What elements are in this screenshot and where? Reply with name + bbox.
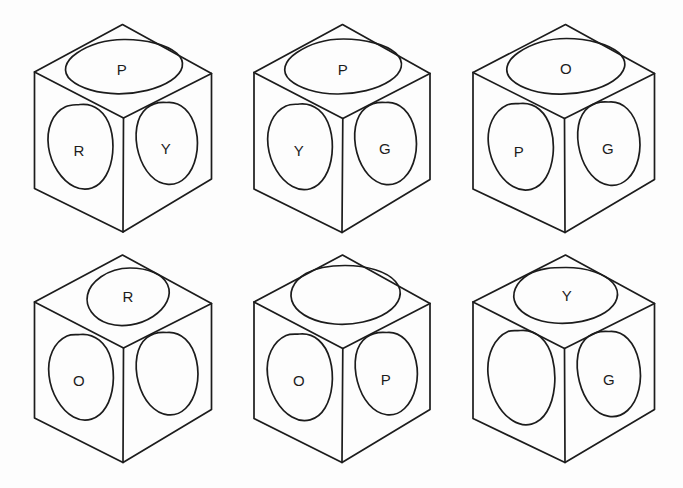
cube-5-left-letter: O bbox=[293, 372, 305, 389]
cube-4-top-letter: R bbox=[122, 288, 133, 305]
cube-1-top-letter: P bbox=[117, 61, 127, 78]
cube-2-top-letter: P bbox=[338, 61, 348, 78]
cube-1[interactable]: P R Y bbox=[34, 24, 212, 233]
cube-3-left-letter: P bbox=[514, 143, 524, 160]
figure-canvas: P R Y P Y G O P G R O O P Y G bbox=[0, 0, 683, 488]
cube-1-right-letter: Y bbox=[161, 140, 171, 157]
cube-3-top-letter: O bbox=[560, 60, 572, 77]
cube-2[interactable]: P Y G bbox=[254, 24, 430, 233]
cube-4-left-letter: O bbox=[73, 372, 85, 389]
cube-5[interactable]: O P bbox=[254, 255, 430, 463]
cube-3-right-letter: G bbox=[602, 140, 614, 157]
cube-6-top-letter: Y bbox=[562, 287, 572, 304]
cube-4[interactable]: R O bbox=[34, 255, 212, 463]
cube-2-left-letter: Y bbox=[294, 142, 304, 159]
cube-1-left-letter: R bbox=[73, 142, 84, 159]
cube-6[interactable]: Y G bbox=[473, 255, 655, 463]
cube-5-right-letter: P bbox=[381, 371, 391, 388]
cube-6-right-letter: G bbox=[603, 371, 615, 388]
cube-2-right-letter: G bbox=[379, 140, 391, 157]
cube-3[interactable]: O P G bbox=[473, 24, 655, 233]
